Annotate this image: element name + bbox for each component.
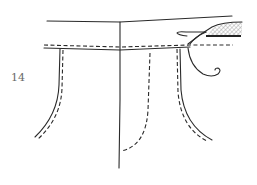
center-front-line: [119, 22, 120, 168]
hatched-facing-cross: [208, 22, 242, 35]
waistband-top-edge: [47, 16, 232, 22]
thread-curl: [188, 48, 220, 76]
waistband-stitching: [44, 45, 233, 47]
fly-stitching: [121, 53, 150, 151]
fold-line: [190, 32, 206, 44]
right-side-seam: [180, 49, 212, 140]
sewing-diagram-figure: 14: [0, 0, 257, 185]
diagram-drawing: [0, 0, 257, 185]
left-side-seam: [35, 49, 60, 137]
